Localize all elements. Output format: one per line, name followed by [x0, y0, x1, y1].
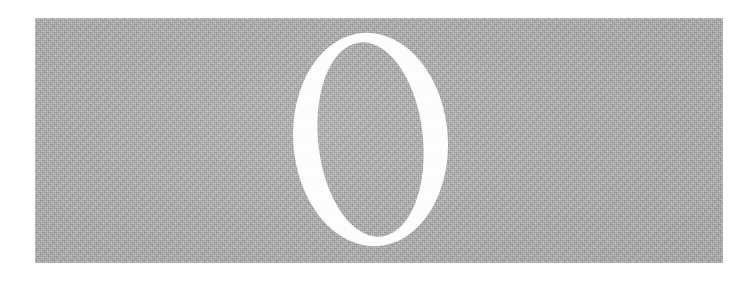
initial-letter-O — [35, 18, 723, 263]
letter-O-glyph — [35, 18, 723, 263]
scanned-page: O Scanned page showing a large white ita… — [0, 0, 754, 288]
gray-halftone-panel — [35, 18, 723, 263]
